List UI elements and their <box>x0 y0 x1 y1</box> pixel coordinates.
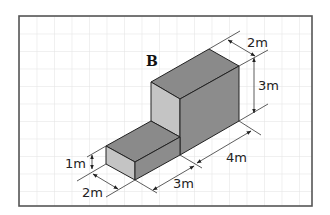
figure-label: B <box>146 53 158 69</box>
dim-tall-length-label: 4m <box>226 150 247 165</box>
dim-tall-depth-label: 2m <box>247 35 268 50</box>
stepped-block-diagram: B 2m 3m 4m 3m <box>0 0 330 215</box>
dim-low-height-label: 1m <box>65 156 86 171</box>
dim-low-depth-label: 2m <box>82 185 103 200</box>
dim-tall-height-label: 3m <box>258 78 279 93</box>
dim-low-length-label: 3m <box>173 176 194 191</box>
